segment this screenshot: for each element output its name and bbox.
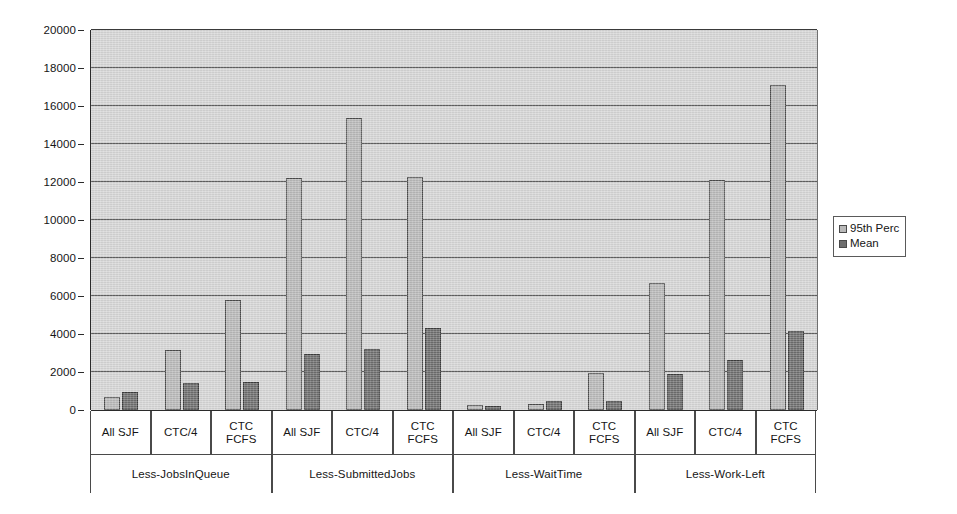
bar	[727, 360, 743, 410]
y-axis-tick-label: 12000	[44, 177, 76, 188]
y-axis-tick-label: 4000	[50, 329, 76, 340]
bar	[649, 283, 665, 410]
y-axis-tick-label: 8000	[50, 253, 76, 264]
group-label-less-waittime: Less-WaitTime	[453, 455, 635, 493]
y-axis: 0200040006000800010000120001400016000180…	[18, 22, 84, 418]
y-axis-tick-mark	[78, 296, 84, 297]
bar	[364, 349, 380, 410]
category-label-ctc-4: CTC/4	[695, 411, 756, 455]
bar	[346, 118, 362, 410]
y-axis-tick-mark	[78, 68, 84, 69]
bar	[667, 374, 683, 410]
category-label-ctc-fcfs: CTCFCFS	[393, 411, 454, 455]
y-axis-tick-mark	[78, 106, 84, 107]
y-axis-tick-label: 6000	[50, 291, 76, 302]
category-label-ctc-fcfs: CTCFCFS	[574, 411, 635, 455]
y-axis-tick-mark	[78, 258, 84, 259]
plot-area	[90, 30, 817, 410]
category-axis: All SJFCTC/4CTCFCFSAll SJFCTC/4CTCFCFSAl…	[90, 411, 816, 493]
y-axis-tick-label: 2000	[50, 367, 76, 378]
y-axis-tick-mark	[78, 144, 84, 145]
category-label-ctc-fcfs: CTCFCFS	[211, 411, 272, 455]
category-label-line: FCFS	[771, 433, 801, 446]
bar	[243, 382, 259, 411]
group-label-less-jobsinqueue: Less-JobsInQueue	[90, 455, 272, 493]
legend: 95th PercMean	[833, 216, 906, 257]
category-label-line: CTC	[771, 420, 801, 433]
bar	[709, 180, 725, 410]
category-label-line: CTC/4	[527, 426, 561, 439]
category-label-line: CTC	[226, 420, 256, 433]
y-axis-tick-label: 14000	[44, 139, 76, 150]
bar	[407, 177, 423, 410]
y-axis-tick-label: 10000	[44, 215, 76, 226]
legend-entry: Mean	[839, 236, 899, 251]
bar	[165, 350, 181, 410]
category-label-ctc-4: CTC/4	[332, 411, 393, 455]
y-axis-tick-mark	[78, 334, 84, 335]
group-label-less-submittedjobs: Less-SubmittedJobs	[272, 455, 454, 493]
y-axis-tick-label: 20000	[44, 25, 76, 36]
y-axis-tick-mark	[78, 410, 84, 411]
category-label-ctc-4: CTC/4	[514, 411, 575, 455]
category-label-all-sjf: All SJF	[272, 411, 333, 455]
category-label-line: CTC/4	[708, 426, 742, 439]
category-label-ctc-fcfs: CTCFCFS	[756, 411, 817, 455]
category-axis-subgroup-row: All SJFCTC/4CTCFCFSAll SJFCTC/4CTCFCFSAl…	[90, 411, 816, 455]
y-axis-tick-label: 16000	[44, 101, 76, 112]
legend-label: Mean	[850, 236, 879, 251]
x-axis-line	[91, 410, 817, 412]
bar	[304, 354, 320, 410]
y-axis-tick-label: 18000	[44, 63, 76, 74]
category-label-line: All SJF	[465, 426, 502, 439]
category-label-ctc-4: CTC/4	[151, 411, 212, 455]
bar	[225, 300, 241, 410]
plot-right-edge	[817, 30, 818, 410]
y-axis-tick-mark	[78, 220, 84, 221]
y-axis-tick-mark	[78, 182, 84, 183]
bar	[770, 85, 786, 410]
legend-label: 95th Perc	[850, 221, 899, 236]
bars-layer	[91, 30, 817, 410]
category-label-line: CTC/4	[164, 426, 198, 439]
y-axis-tick-label: 0	[70, 405, 77, 416]
category-label-line: All SJF	[102, 426, 139, 439]
y-axis-tick-mark	[78, 372, 84, 373]
category-label-line: FCFS	[408, 433, 438, 446]
bar-chart: 0200040006000800010000120001400016000180…	[0, 0, 957, 514]
legend-entry: 95th Perc	[839, 221, 899, 236]
category-label-line: FCFS	[589, 433, 619, 446]
bar	[425, 328, 441, 410]
legend-swatch-icon	[839, 225, 847, 233]
category-label-line: CTC	[408, 420, 438, 433]
bar	[588, 373, 604, 410]
bar	[183, 383, 199, 410]
category-label-line: FCFS	[226, 433, 256, 446]
category-label-all-sjf: All SJF	[635, 411, 696, 455]
category-label-line: CTC/4	[345, 426, 379, 439]
category-label-all-sjf: All SJF	[90, 411, 151, 455]
group-label-less-work-left: Less-Work-Left	[635, 455, 817, 493]
category-axis-group-row: Less-JobsInQueueLess-SubmittedJobsLess-W…	[90, 455, 816, 493]
bar	[122, 392, 138, 410]
category-label-line: All SJF	[283, 426, 320, 439]
category-label-all-sjf: All SJF	[453, 411, 514, 455]
bar	[104, 397, 120, 410]
legend-swatch-icon	[839, 240, 847, 248]
category-label-line: CTC	[589, 420, 619, 433]
category-label-line: All SJF	[646, 426, 683, 439]
bar	[286, 178, 302, 410]
y-axis-tick-mark	[78, 30, 84, 31]
bar	[788, 331, 804, 410]
